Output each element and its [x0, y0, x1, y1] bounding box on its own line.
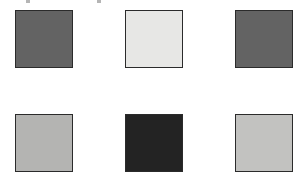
swatch-canvas	[0, 0, 304, 181]
swatch-fill-row1-col3	[236, 11, 292, 67]
swatch-row2-col2[interactable]	[125, 114, 183, 172]
swatch-fill-row2-col2	[126, 115, 182, 171]
swatch-fill-row1-col2	[126, 11, 182, 67]
swatch-row2-col3[interactable]	[235, 114, 293, 172]
swatch-row1-col1[interactable]	[15, 10, 73, 68]
swatch-row2-col1[interactable]	[15, 114, 73, 172]
swatch-fill-row2-col1	[16, 115, 72, 171]
swatch-fill-row2-col3	[236, 115, 292, 171]
swatch-fill-row1-col1	[16, 11, 72, 67]
top-edge-artifact-left	[26, 0, 30, 3]
swatch-row1-col3[interactable]	[235, 10, 293, 68]
top-edge-artifact-right	[97, 0, 101, 3]
swatch-row1-col2[interactable]	[125, 10, 183, 68]
